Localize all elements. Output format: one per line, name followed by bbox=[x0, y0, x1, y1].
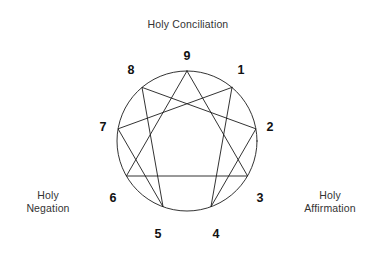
enneagram-point-6: 6 bbox=[110, 191, 117, 205]
enneagram-point-2: 2 bbox=[267, 120, 274, 134]
enneagram-triangle-963 bbox=[126, 71, 247, 176]
enneagram-point-7: 7 bbox=[100, 120, 107, 134]
enneagram-circle bbox=[117, 71, 257, 211]
enneagram-point-5: 5 bbox=[155, 227, 162, 241]
enneagram-point-4: 4 bbox=[213, 227, 220, 241]
enneagram-point-3: 3 bbox=[257, 191, 264, 205]
enneagram-point-1: 1 bbox=[238, 63, 245, 77]
enneagram-point-8: 8 bbox=[128, 63, 135, 77]
enneagram-hexad-142857 bbox=[118, 87, 256, 206]
enneagram-svg: 912345678 bbox=[0, 0, 376, 254]
enneagram-number-group: 912345678 bbox=[100, 49, 274, 241]
enneagram-point-9: 9 bbox=[184, 49, 191, 63]
enneagram-figure: Holy Conciliation Holy Negation Holy Aff… bbox=[0, 0, 376, 254]
